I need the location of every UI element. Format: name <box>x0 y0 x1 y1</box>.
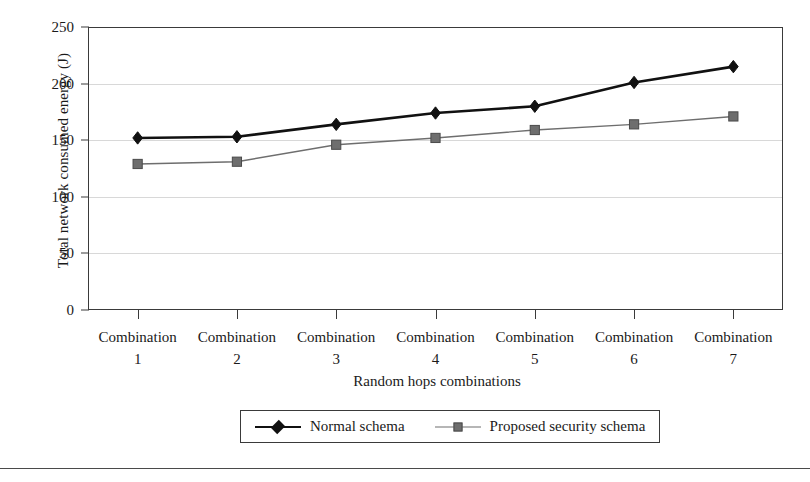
legend-label-proposed-security-schema: Proposed security schema <box>490 418 646 435</box>
x-tick-mark-5 <box>535 310 536 319</box>
figure-chart-total-network-consumed-energy: Total network consumed energy (J) 050100… <box>0 0 810 482</box>
chart-legend: Normal schema Proposed security schema <box>240 410 660 443</box>
x-tick-mark-3 <box>336 310 337 319</box>
y-tick-mark-250 <box>81 27 89 28</box>
x-tick-mark-2 <box>237 310 238 319</box>
x-tick-label-number: 7 <box>673 348 793 370</box>
x-axis-title-text: Random hops combinations <box>289 373 521 389</box>
x-tick-label-word: Combination <box>198 329 276 345</box>
y-tick-mark-0 <box>81 310 89 311</box>
y-tick-mark-50 <box>81 253 89 254</box>
legend-marker-square <box>453 422 462 431</box>
x-tick-label-word: Combination <box>297 329 375 345</box>
x-tick-label-word: Combination <box>496 329 574 345</box>
x-tick-mark-1 <box>138 310 139 319</box>
x-tick-mark-6 <box>634 310 635 319</box>
y-tick-label-50: 50 <box>0 245 86 262</box>
legend-marker-diamond <box>271 419 285 433</box>
legend-swatch-square-icon <box>435 420 481 434</box>
legend-label-normal-schema: Normal schema <box>310 418 405 435</box>
y-tick-label-100: 100 <box>0 188 86 205</box>
gridline-y-50 <box>89 253 782 254</box>
y-tick-label-200: 200 <box>0 75 86 92</box>
gridline-y-150 <box>89 140 782 141</box>
x-tick-mark-7 <box>733 310 734 319</box>
x-tick-label-7: Combination7 <box>673 326 793 370</box>
plot-area <box>88 27 783 310</box>
y-tick-label-150: 150 <box>0 132 86 149</box>
x-axis-title: Random hops combinations <box>0 373 810 390</box>
y-axis-title: Total network consumed energy (J) <box>55 6 72 316</box>
x-tick-label-word: Combination <box>396 329 474 345</box>
y-tick-label-250: 250 <box>0 19 86 36</box>
x-tick-label-word: Combination <box>595 329 673 345</box>
x-tick-label-word: Combination <box>98 329 176 345</box>
y-tick-mark-100 <box>81 196 89 197</box>
gridline-y-100 <box>89 197 782 198</box>
y-tick-mark-150 <box>81 140 89 141</box>
page-bottom-rule <box>0 468 810 469</box>
y-tick-label-0: 0 <box>0 302 86 319</box>
gridline-y-200 <box>89 84 782 85</box>
legend-item-normal-schema: Normal schema <box>255 418 405 435</box>
legend-swatch-diamond-icon <box>255 420 301 434</box>
x-tick-mark-4 <box>436 310 437 319</box>
legend-item-proposed-security-schema: Proposed security schema <box>435 418 646 435</box>
x-tick-label-word: Combination <box>694 329 772 345</box>
y-tick-mark-200 <box>81 83 89 84</box>
